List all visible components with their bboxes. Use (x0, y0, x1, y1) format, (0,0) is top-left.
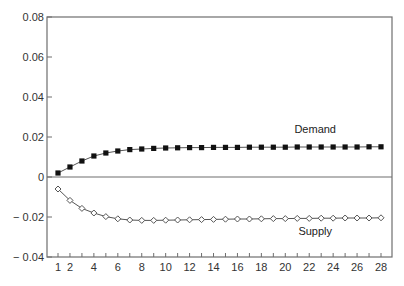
diamond-marker-icon (270, 216, 276, 222)
square-marker-icon (366, 144, 371, 149)
diamond-marker-icon (294, 215, 300, 221)
diamond-marker-icon (187, 217, 193, 223)
square-marker-icon (151, 146, 156, 151)
square-marker-icon (307, 144, 312, 149)
square-marker-icon (247, 145, 252, 150)
x-tick-label: 28 (375, 261, 387, 273)
square-marker-icon (235, 145, 240, 150)
square-marker-icon (187, 145, 192, 150)
square-marker-icon (319, 144, 324, 149)
square-marker-icon (79, 158, 84, 163)
y-tick-label: − 0.02 (13, 211, 44, 223)
diamond-marker-icon (246, 216, 252, 222)
diamond-marker-icon (306, 215, 312, 221)
diamond-marker-icon (330, 215, 336, 221)
x-tick-label: 22 (303, 261, 315, 273)
square-marker-icon (163, 145, 168, 150)
y-tick-label: − 0.04 (13, 251, 44, 263)
diamond-marker-icon (366, 215, 372, 221)
square-marker-icon (199, 145, 204, 150)
demand-series (55, 144, 383, 175)
diamond-marker-icon (151, 217, 157, 223)
square-marker-icon (354, 144, 359, 149)
square-marker-icon (115, 148, 120, 153)
square-marker-icon (67, 164, 72, 169)
y-axis: 0.080.060.040.020− 0.02− 0.04 (13, 11, 52, 263)
plot-border (47, 17, 392, 257)
supply-series (55, 186, 384, 223)
y-tick-label: 0.04 (23, 91, 44, 103)
y-tick-label: 0.08 (23, 11, 44, 23)
diamond-marker-icon (79, 205, 85, 211)
x-tick-label: 6 (115, 261, 121, 273)
diamond-marker-icon (115, 216, 121, 222)
diamond-marker-icon (342, 215, 348, 221)
diamond-marker-icon (175, 217, 181, 223)
square-marker-icon (211, 145, 216, 150)
square-marker-icon (378, 144, 383, 149)
diamond-marker-icon (222, 216, 228, 222)
diamond-marker-icon (91, 210, 97, 216)
x-tick-label: 10 (160, 261, 172, 273)
y-tick-label: 0.06 (23, 51, 44, 63)
diamond-marker-icon (234, 216, 240, 222)
diamond-marker-icon (163, 217, 169, 223)
diamond-marker-icon (199, 217, 205, 223)
x-tick-label: 26 (351, 261, 363, 273)
x-tick-label: 14 (207, 261, 219, 273)
diamond-marker-icon (211, 216, 217, 222)
x-tick-label: 16 (231, 261, 243, 273)
y-tick-label: 0.02 (23, 131, 44, 143)
x-tick-label: 1 (55, 261, 61, 273)
x-axis: 1246810121416182022242628 (55, 253, 387, 273)
square-marker-icon (91, 153, 96, 158)
series-labels: DemandSupply (294, 123, 336, 237)
diamond-marker-icon (258, 216, 264, 222)
square-marker-icon (55, 170, 60, 175)
diamond-marker-icon (282, 216, 288, 222)
x-tick-label: 4 (91, 261, 97, 273)
square-marker-icon (139, 146, 144, 151)
x-tick-label: 12 (183, 261, 195, 273)
impulse-response-chart: 0.080.060.040.020− 0.02− 0.04 1246810121… (0, 0, 404, 286)
square-marker-icon (127, 147, 132, 152)
square-marker-icon (103, 150, 108, 155)
square-marker-icon (295, 144, 300, 149)
diamond-marker-icon (127, 217, 133, 223)
series-label-supply: Supply (298, 225, 332, 237)
x-tick-label: 20 (279, 261, 291, 273)
square-marker-icon (331, 144, 336, 149)
x-tick-label: 2 (67, 261, 73, 273)
diamond-marker-icon (318, 215, 324, 221)
x-tick-label: 18 (255, 261, 267, 273)
x-tick-label: 24 (327, 261, 339, 273)
square-marker-icon (271, 145, 276, 150)
diamond-marker-icon (378, 215, 384, 221)
x-tick-label: 8 (139, 261, 145, 273)
square-marker-icon (223, 145, 228, 150)
y-tick-label: 0 (38, 171, 44, 183)
diamond-marker-icon (103, 214, 109, 220)
diamond-marker-icon (354, 215, 360, 221)
square-marker-icon (259, 145, 264, 150)
square-marker-icon (283, 145, 288, 150)
plot-frame (47, 17, 392, 257)
square-marker-icon (175, 145, 180, 150)
diamond-marker-icon (139, 217, 145, 223)
series-label-demand: Demand (294, 123, 336, 135)
square-marker-icon (343, 144, 348, 149)
